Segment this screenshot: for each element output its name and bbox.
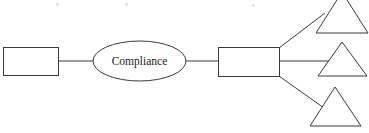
node-output-triangle-bottom[interactable]	[310, 87, 361, 126]
node-compliance-label: Compliance	[112, 55, 168, 68]
node-input-box[interactable]	[4, 48, 59, 76]
flowchart-svg: Compliance	[0, 0, 369, 133]
scan-artifact-speck	[56, 3, 59, 6]
scan-artifact-speck	[252, 4, 255, 7]
edge-process-to-triangle-bottom	[279, 76, 324, 108]
scan-artifact-speck	[125, 3, 128, 6]
diagram-canvas: Compliance	[0, 0, 369, 133]
node-output-triangle-middle[interactable]	[318, 42, 367, 76]
node-process-box[interactable]	[219, 48, 280, 77]
node-output-triangle-top[interactable]	[316, 0, 368, 33]
